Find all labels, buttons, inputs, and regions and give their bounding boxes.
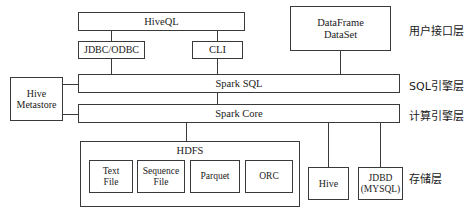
connector-jdbc-to-spark-sql bbox=[111, 58, 112, 75]
node-sequence-file-label-line2: File bbox=[136, 177, 186, 188]
node-spark-sql[interactable]: Spark SQL bbox=[78, 74, 400, 93]
node-orc[interactable]: ORC bbox=[245, 160, 293, 193]
node-sequence-file-label-line1: Sequence bbox=[136, 166, 186, 177]
node-dataframe-label-line1: DataFrame bbox=[289, 17, 392, 29]
node-hive-metastore-label-line2: Metastore bbox=[9, 99, 64, 110]
node-orc-label: ORC bbox=[246, 171, 292, 182]
layer-label-user-interface: 用户接口层 bbox=[409, 22, 464, 38]
connector-dataframe-to-spark-sql bbox=[340, 50, 341, 75]
node-hive-metastore[interactable]: Hive Metastore bbox=[10, 77, 63, 121]
node-hiveql[interactable]: HiveQL bbox=[78, 12, 245, 31]
node-sequence-file[interactable]: Sequence File bbox=[137, 160, 185, 193]
node-jdbc-odbc-label: JDBC/ODBC bbox=[79, 44, 144, 55]
connector-spark-core-to-jdbd bbox=[380, 122, 381, 167]
node-jdbc-odbc[interactable]: JDBC/ODBC bbox=[78, 41, 145, 59]
node-text-file-label-line1: Text bbox=[88, 166, 134, 177]
group-hdfs-title: HDFS bbox=[80, 145, 300, 156]
node-hive[interactable]: Hive bbox=[308, 167, 349, 200]
node-parquet[interactable]: Parquet bbox=[190, 160, 240, 193]
connector-cli-to-spark-sql bbox=[217, 58, 218, 75]
node-parquet-label: Parquet bbox=[191, 171, 239, 182]
layer-label-sql-engine: SQL引擎层 bbox=[409, 77, 464, 93]
layer-label-compute-engine: 计算引擎层 bbox=[409, 107, 464, 123]
node-text-file[interactable]: Text File bbox=[89, 160, 133, 193]
node-dataframe-label-line2: DataSet bbox=[289, 29, 392, 41]
node-text-file-label-line2: File bbox=[88, 177, 134, 188]
node-spark-core[interactable]: Spark Core bbox=[78, 104, 400, 123]
node-dataframe-dataset[interactable]: DataFrame DataSet bbox=[290, 6, 391, 51]
node-hive-metastore-label-line1: Hive bbox=[9, 88, 64, 99]
layer-label-storage: 存储层 bbox=[409, 170, 442, 186]
spark-sql-architecture-diagram: HiveQL DataFrame DataSet JDBC/ODBC CLI S… bbox=[0, 0, 472, 213]
node-spark-core-label: Spark Core bbox=[215, 108, 263, 119]
node-cli[interactable]: CLI bbox=[192, 41, 243, 59]
connector-hiveql-to-cli bbox=[217, 30, 218, 41]
connector-hiveql-to-jdbc bbox=[111, 30, 112, 41]
node-hiveql-label: HiveQL bbox=[79, 16, 244, 28]
node-jdbd-mysql[interactable]: JDBD (MYSQL) bbox=[358, 167, 403, 200]
node-jdbd-label-line1: JDBD bbox=[357, 173, 404, 184]
node-hive-label: Hive bbox=[309, 178, 348, 189]
connector-metastore-to-spark-sql bbox=[63, 84, 79, 85]
node-spark-sql-label: Spark SQL bbox=[216, 78, 263, 89]
node-cli-label: CLI bbox=[193, 44, 242, 56]
connector-metastore-to-spark-core bbox=[63, 114, 79, 115]
node-jdbd-label-line2: (MYSQL) bbox=[357, 184, 404, 195]
connector-spark-core-to-hdfs bbox=[186, 122, 187, 141]
connector-spark-core-to-hive bbox=[328, 122, 329, 167]
